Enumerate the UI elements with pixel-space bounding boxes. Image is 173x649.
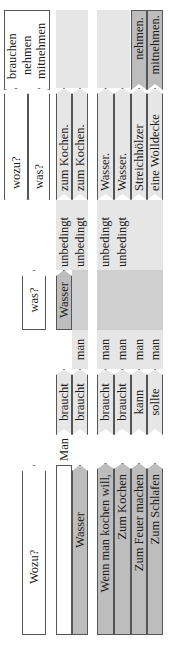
row-0-pronoun: man [97,330,114,369]
row-3-adverb-empty [147,200,163,270]
row-2-infinitive: nehmen. [131,10,147,90]
verb-brauchen: brauchen [6,33,19,79]
row-1-pronoun: man [114,330,131,369]
header-was-small-label: was? [33,164,46,189]
row-0-adverb: unbedingt [97,200,114,270]
example-object: Wasser [56,270,72,330]
inverted-wozu: Wasser [72,465,88,635]
example-purpose: zum Kochen. [56,88,72,200]
inverted-pronoun: man [72,330,88,369]
example-infinitive-empty [56,10,88,88]
verb-nehmen: nehmen [21,35,34,79]
row-2-pronoun: man [131,330,147,369]
verb-mitnehmen: mitnehmen [35,23,48,79]
row-2-wozu: Zum Feuer machen [131,463,147,635]
row-0-object: Wasser. [97,88,114,200]
row-1-object: Wasser. [114,88,131,200]
rows-infinitive-empty [97,10,130,88]
example-adverb: unbedingt [56,200,72,270]
header-wozu-small: wozu? [4,88,28,200]
inverted-verb: braucht [72,369,88,435]
row-3-infinitive: mitnehmen. [147,10,163,90]
row-3-verb: sollte [147,369,163,435]
inverted-purpose: zum Kochen. [72,88,88,200]
header-was-small: was? [28,88,50,200]
header-wozu-small-label: wozu? [10,156,23,189]
header-wozu: Wozu? [22,465,46,635]
header-verbs: brauchen nehmen mitnehmen [4,10,50,90]
row-1-adverb: unbedingt [114,200,131,270]
inverted-object-empty [72,270,88,330]
row-0-wozu: Wenn man kochen will, [97,463,114,635]
header-was-label: was? [28,288,41,313]
example-verb: braucht [56,369,72,435]
inverted-adverb: unbedingt [72,200,88,270]
example-empty-cell [56,465,72,635]
row-3-pronoun: man [147,330,163,369]
row-3-wozu: Zum Schlafen [147,463,163,635]
rows-object-gray-block [97,270,163,330]
rotated-grammar-table: Wozu? was? wozu? was? brauchen nehmen mi… [0,0,173,649]
row-1-verb: braucht [114,369,131,435]
row-2-adverb-empty [131,200,147,270]
header-was: was? [22,270,46,330]
row-1-wozu: Zum Kochen [114,463,131,635]
row-3-object: eine Wolldecke [147,88,163,200]
row-2-verb: kann [131,369,147,435]
example-subject: Man [56,435,72,465]
row-2-object: Streichhölzer [131,88,147,200]
header-wozu-label: Wozu? [28,550,41,584]
row-0-verb: braucht [97,369,114,435]
